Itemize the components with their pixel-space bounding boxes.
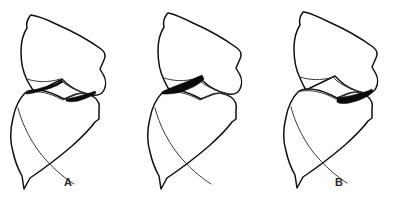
panel-a-drawing	[0, 0, 133, 205]
panel-a: A	[0, 0, 133, 205]
upper-valve-c	[294, 12, 378, 93]
lower-valve-c	[284, 89, 373, 188]
figure-root: A B C	[0, 0, 399, 205]
panel-b-drawing	[133, 0, 266, 205]
panel-label-a: A	[58, 176, 78, 188]
panel-b: B	[133, 0, 266, 205]
lower-valve-a	[11, 90, 100, 189]
upper-valve-a	[21, 15, 106, 95]
lower-valve-b	[148, 90, 237, 189]
panel-c-drawing	[266, 0, 399, 205]
panel-c: C	[266, 0, 399, 205]
